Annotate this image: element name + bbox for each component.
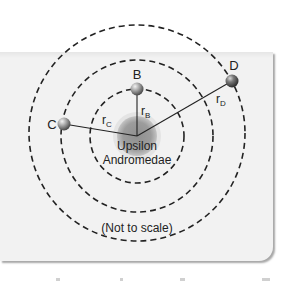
planet-d (226, 75, 239, 88)
next-page-text-fragment (56, 278, 60, 281)
radius-label-b-sub: B (145, 111, 150, 120)
star-label-line2: Andromedae (103, 153, 172, 167)
star-label-line1: Upsilon (117, 139, 157, 153)
next-page-text-fragment (120, 278, 123, 281)
next-page-text-fragment (262, 278, 270, 281)
radius-label-d: rD (216, 92, 226, 108)
radius-label-c: rC (102, 113, 112, 129)
radius-label-b: rB (141, 104, 150, 120)
radius-line-d (137, 81, 232, 136)
planet-c (58, 118, 71, 131)
next-page-text-fragment (180, 278, 185, 281)
radius-label-d-sub: D (220, 99, 226, 108)
planet-d-label: D (229, 58, 238, 73)
planet-b-label: B (133, 67, 142, 82)
radius-label-c-sub: C (106, 120, 112, 129)
not-to-scale-note: (Not to scale) (101, 221, 172, 235)
planet-c-label: C (47, 117, 56, 132)
planet-b (131, 83, 144, 96)
orbit-diagram: B C D rB rC rD Upsilon Andromedae (Not t… (0, 0, 290, 283)
